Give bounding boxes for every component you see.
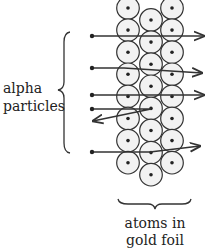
particle-2-source-dot [90, 66, 94, 70]
particle-4-source-dot [90, 107, 94, 111]
nucleus [170, 50, 174, 54]
alpha-label-line1: alpha [3, 80, 42, 96]
foil-brace [118, 199, 191, 209]
nucleus [149, 85, 153, 89]
particle-5-source-dot [90, 150, 94, 154]
nucleus [170, 28, 174, 32]
nucleus [126, 73, 130, 77]
nucleus [170, 117, 174, 121]
rutherford-scattering-diagram: alpha particles atoms in gold foil [0, 0, 214, 249]
alpha-label-line2: particles [3, 98, 65, 114]
nucleus [149, 62, 153, 66]
nucleus [126, 28, 130, 32]
gold-foil-atoms [117, 0, 184, 186]
nucleus [126, 161, 130, 165]
nucleus [149, 18, 153, 22]
nucleus [170, 6, 174, 10]
nucleus [149, 173, 153, 177]
nucleus [170, 161, 174, 165]
nucleus [170, 73, 174, 77]
foil-label-line2: gold foil [126, 232, 184, 248]
particle-3-source-dot [90, 93, 94, 97]
nucleus [126, 50, 130, 54]
nucleus [126, 117, 130, 121]
nucleus [126, 139, 130, 143]
foil-label-line1: atoms in [125, 215, 186, 231]
alpha-brace [58, 32, 70, 153]
nucleus [170, 139, 174, 143]
nucleus [149, 40, 153, 44]
nucleus [149, 129, 153, 133]
particle-1-source-dot [90, 34, 94, 38]
nucleus [126, 6, 130, 10]
